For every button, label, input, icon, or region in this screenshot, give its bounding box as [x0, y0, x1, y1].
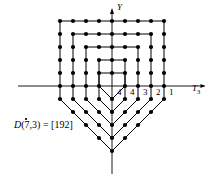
lattice-dot	[110, 19, 114, 23]
lattice-dot	[97, 45, 101, 49]
lattice-dot	[97, 71, 101, 75]
lattice-dot	[71, 71, 75, 75]
lattice-dot	[123, 45, 127, 49]
x-axis-label-subscript: 3	[197, 88, 200, 95]
lattice-diagram	[0, 0, 214, 174]
lattice-dot	[97, 123, 101, 127]
lattice-dot	[97, 58, 101, 62]
lattice-dot	[97, 19, 101, 23]
lattice-dot	[136, 58, 140, 62]
lattice-dot	[123, 97, 127, 101]
x-tick-label-4: 2	[156, 88, 161, 97]
lattice-dot	[58, 45, 62, 49]
lattice-dot	[123, 123, 127, 127]
lattice-dot	[136, 19, 140, 23]
lattice-dot	[162, 32, 166, 36]
y-axis-label: Y	[117, 3, 122, 12]
lattice-dot	[136, 45, 140, 49]
y-axis-arrowhead	[110, 8, 114, 14]
lattice-dot	[123, 84, 127, 88]
x-tick-label-2: 4	[130, 88, 135, 97]
caption-args: (7,3)	[21, 119, 40, 130]
lattice-dot	[136, 97, 140, 101]
lattice-dot	[71, 84, 75, 88]
lattice-dot	[162, 71, 166, 75]
lattice-dot	[71, 45, 75, 49]
lattice-dot	[84, 19, 88, 23]
lattice-dot	[58, 71, 62, 75]
lattice-dot	[136, 123, 140, 127]
lattice-dot	[136, 84, 140, 88]
lattice-dot	[110, 123, 114, 127]
lattice-dot	[58, 58, 62, 62]
lattice-dot	[84, 123, 88, 127]
lattice-dot	[97, 110, 101, 114]
lattice-dot	[123, 32, 127, 36]
lattice-dot	[136, 32, 140, 36]
lattice-dot	[123, 110, 127, 114]
lattice-dot	[110, 32, 114, 36]
lattice-dot	[149, 97, 153, 101]
lattice-dot	[84, 110, 88, 114]
lattice-dot	[149, 110, 153, 114]
lattice-dot	[149, 58, 153, 62]
lattice-dot	[97, 136, 101, 140]
lattice-dot	[136, 110, 140, 114]
x-tick-label-3: 3	[143, 88, 148, 97]
x-tick-label-1: 4	[117, 88, 122, 97]
lattice-dot	[123, 19, 127, 23]
lattice-dot	[58, 84, 62, 88]
lattice-dot	[110, 149, 114, 153]
lattice-dot	[84, 58, 88, 62]
lattice-dot	[110, 136, 114, 140]
figure-caption: D(7,3) = [192]	[14, 120, 73, 130]
x-tick-label-5: 1	[169, 88, 174, 97]
caption-accent-dot	[25, 118, 27, 120]
lattice-dot	[58, 32, 62, 36]
lattice-dot	[162, 45, 166, 49]
lattice-dot	[84, 32, 88, 36]
lattice-dot	[71, 58, 75, 62]
lattice-dot	[123, 71, 127, 75]
lattice-dot	[136, 71, 140, 75]
lattice-dot	[97, 97, 101, 101]
lattice-dot	[58, 19, 62, 23]
lattice-dot	[110, 97, 114, 101]
lattice-dot	[123, 136, 127, 140]
lattice-dot	[71, 97, 75, 101]
lattice-dot	[71, 110, 75, 114]
lattice-dot	[110, 71, 114, 75]
lattice-dot	[123, 58, 127, 62]
lattice-dot	[149, 32, 153, 36]
lattice-dot	[58, 97, 62, 101]
lattice-dot	[84, 45, 88, 49]
lattice-dot	[84, 71, 88, 75]
x-axis-arrowhead	[201, 84, 206, 88]
lattice-dot	[162, 97, 166, 101]
x-axis-label: T3	[192, 84, 200, 95]
lattice-dot	[71, 19, 75, 23]
lattice-dot	[162, 19, 166, 23]
caption-equals: = [192]	[43, 119, 73, 130]
lattice-dot	[149, 19, 153, 23]
lattice-dot	[97, 32, 101, 36]
lattice-dot	[84, 84, 88, 88]
lattice-dot	[71, 32, 75, 36]
lattice-dot	[84, 97, 88, 101]
lattice-dot	[149, 71, 153, 75]
lattice-dot	[149, 45, 153, 49]
lattice-dot	[162, 84, 166, 88]
lattice-dot	[110, 110, 114, 114]
lattice-dot	[110, 58, 114, 62]
lattice-dot	[110, 45, 114, 49]
lattice-dot	[149, 84, 153, 88]
lattice-dot	[162, 58, 166, 62]
lattice-dot	[97, 84, 101, 88]
